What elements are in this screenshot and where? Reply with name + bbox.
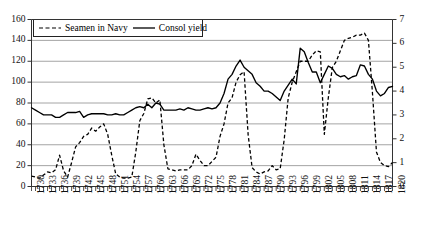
x-axis-tick-label: 1799 [312, 175, 322, 194]
y-axis-left-tick-label: 120 [0, 55, 26, 65]
x-axis-tick-label: 1778 [228, 175, 238, 194]
x-axis-tick-label: 1817 [384, 175, 394, 194]
x-axis-tick-label: 1751 [120, 175, 130, 194]
x-axis-tick-label: 1766 [180, 175, 190, 194]
x-axis-tick-label: 1739 [72, 175, 82, 194]
y-axis-left-tick-label: 100 [0, 76, 26, 86]
x-axis-tick-label: 1793 [288, 175, 298, 194]
x-axis-tick-label: 1796 [300, 175, 310, 194]
y-axis-left-tick-label: 60 [0, 118, 26, 128]
x-axis-tick-label: 1742 [84, 175, 94, 194]
y-axis-right-tick-label: 1 [400, 157, 405, 167]
x-axis-tick-label: 1763 [168, 175, 178, 194]
y-axis-left-tick-label: 20 [0, 160, 26, 170]
x-axis-tick-label: 1814 [372, 175, 382, 194]
x-axis-tick-label: 1760 [156, 175, 166, 194]
x-axis-tick-label: 1775 [216, 175, 226, 194]
x-axis-tick-label: 1790 [276, 175, 286, 194]
x-axis-tick-label: 1769 [192, 175, 202, 194]
x-axis-tick-label: 1784 [252, 175, 262, 194]
x-axis-tick-label: 1805 [336, 175, 346, 194]
y-axis-right-tick-label: 7 [400, 14, 405, 24]
x-axis-tick-label: 1802 [324, 175, 334, 194]
y-axis-right-tick-label: 4 [400, 85, 405, 95]
chart-container: Seamen in Navy Consol yield 020406080100… [0, 0, 424, 234]
y-axis-right-tick-label: 3 [400, 109, 405, 119]
x-axis-tick-label: 1808 [348, 175, 358, 194]
x-axis-tick-label: 1733 [48, 175, 58, 194]
y-axis-right-tick-label: 2 [400, 133, 405, 143]
x-axis-tick-label: 1757 [144, 175, 154, 194]
x-axis-tick-label: 1730 [36, 175, 46, 194]
y-axis-right-tick-label: 5 [400, 61, 405, 71]
y-axis-right-ticks [393, 20, 397, 187]
grid-lines [32, 20, 393, 187]
series-line-consol-yield [32, 48, 393, 117]
x-axis-tick-label: 1787 [264, 175, 274, 194]
x-axis-tick-label: 1781 [240, 175, 250, 194]
y-axis-left-ticks [28, 20, 32, 187]
y-axis-left-tick-label: 80 [0, 97, 26, 107]
y-axis-left-tick-label: 40 [0, 139, 26, 149]
plot-area [0, 0, 424, 234]
x-axis-tick-label: 1736 [60, 175, 70, 194]
x-axis-tick-label: 1754 [132, 175, 142, 194]
y-axis-left-tick-label: 160 [0, 14, 26, 24]
x-axis-tick-label: 1820 [397, 175, 407, 194]
x-axis-tick-label: 1748 [108, 175, 118, 194]
y-axis-left-tick-label: 140 [0, 34, 26, 44]
x-axis-tick-label: 1811 [360, 175, 370, 194]
series-line-seamen-in-navy [32, 33, 393, 178]
y-axis-right-tick-label: 6 [400, 37, 405, 47]
x-axis-tick-label: 1745 [96, 175, 106, 194]
x-axis-tick-label: 1772 [204, 175, 214, 194]
y-axis-left-tick-label: 0 [0, 181, 26, 191]
